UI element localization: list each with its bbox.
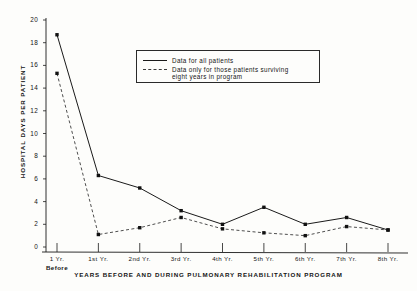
legend-label-survivors-continuation: eight years in program <box>172 73 242 80</box>
series-line-1 <box>57 73 388 235</box>
data-point-marker <box>97 233 100 236</box>
y-tick-label: 4 <box>22 198 38 205</box>
data-point-marker <box>97 174 100 177</box>
data-point-marker <box>221 227 224 230</box>
legend-entry-all-patients: Data for all patients <box>143 56 234 64</box>
y-tick-label: 18 <box>22 39 38 46</box>
data-point-marker <box>179 216 182 219</box>
data-point-marker <box>55 33 58 36</box>
data-point-marker <box>345 216 348 219</box>
data-point-marker <box>262 206 265 209</box>
y-tick-label: 2 <box>22 220 38 227</box>
chart-figure: HOSPITAL DAYS PER PATIENT YEARS BEFORE A… <box>0 0 417 291</box>
chart-plot-area <box>0 0 417 291</box>
y-tick-label: 20 <box>22 16 38 23</box>
data-point-marker <box>179 209 182 212</box>
legend-solid-line-icon <box>143 57 167 63</box>
x-axis-title: YEARS BEFORE AND DURING PULMONARY REHABI… <box>0 271 417 278</box>
y-tick-label: 16 <box>22 61 38 68</box>
y-tick-label: 8 <box>22 152 38 159</box>
data-point-marker <box>345 225 348 228</box>
legend-dashed-line-icon <box>143 66 167 72</box>
y-tick-label: 6 <box>22 175 38 182</box>
x-tick-label: 8th Yr. <box>358 255 417 262</box>
data-point-marker <box>386 228 389 231</box>
y-tick-label: 14 <box>22 84 38 91</box>
data-point-marker <box>262 231 265 234</box>
y-tick-label: 12 <box>22 107 38 114</box>
y-tick-label: 10 <box>22 130 38 137</box>
legend-label-survivors: Data only for those patients surviving <box>172 65 289 72</box>
data-point-marker <box>138 226 141 229</box>
legend-label-all-patients: Data for all patients <box>172 57 234 64</box>
y-tick-label: 0 <box>22 243 38 250</box>
chart-legend: Data for all patients Data only for thos… <box>136 50 320 83</box>
data-point-marker <box>304 223 307 226</box>
data-point-marker <box>138 186 141 189</box>
legend-entry-survivors: Data only for those patients surviving <box>143 65 289 73</box>
data-point-marker <box>304 234 307 237</box>
data-point-marker <box>55 72 58 75</box>
data-point-marker <box>221 223 224 226</box>
